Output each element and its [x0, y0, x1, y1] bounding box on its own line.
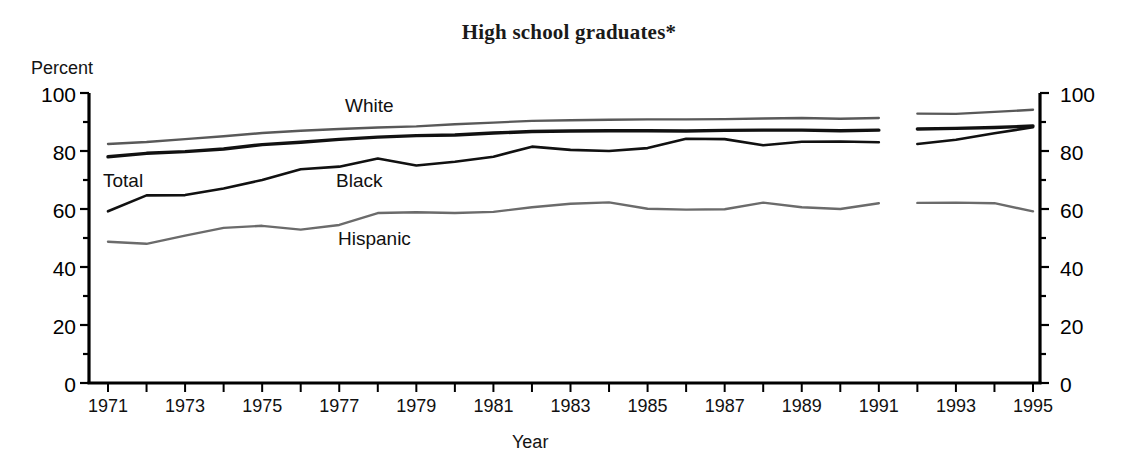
series-line-hispanic-post-break — [917, 203, 1033, 212]
series-line-total-post-break — [917, 126, 1033, 129]
series-line-total-pre-break — [108, 130, 879, 157]
chart-plot-area — [0, 0, 1138, 470]
series-line-white-post-break — [917, 110, 1033, 114]
series-line-hispanic-pre-break — [108, 202, 879, 243]
chart-figure: High school graduates* Percent Year 100 … — [0, 0, 1138, 470]
